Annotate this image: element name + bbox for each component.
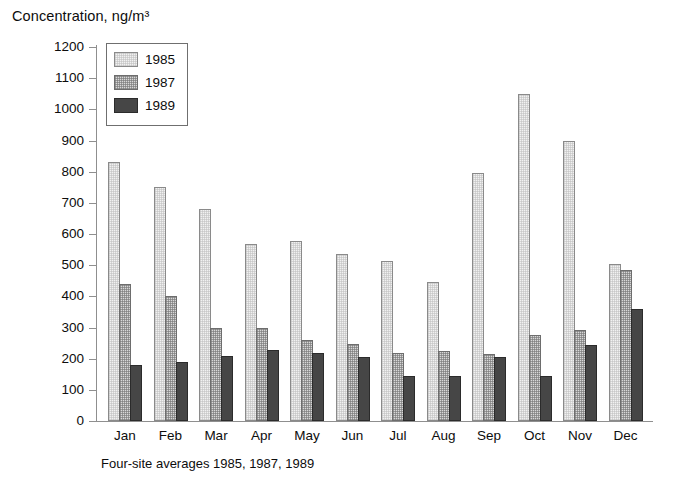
chart-legend: 198519871989 bbox=[106, 43, 188, 126]
y-axis-tick-label-text: 1200 bbox=[40, 40, 84, 54]
y-axis-tick-label: 400 bbox=[34, 289, 84, 303]
y-axis-tick bbox=[89, 203, 97, 204]
y-axis-tick-label-text: 900 bbox=[40, 134, 84, 148]
bar-group bbox=[609, 47, 645, 421]
y-axis-tick-label: 0 bbox=[34, 414, 84, 428]
y-axis-tick bbox=[89, 390, 97, 391]
bar-group bbox=[290, 47, 326, 421]
y-axis-tick bbox=[89, 328, 97, 329]
y-axis-tick-label: 300 bbox=[34, 321, 84, 335]
y-axis-tick bbox=[89, 421, 97, 422]
x-axis-tick-label: Dec bbox=[596, 428, 656, 443]
y-axis-tick bbox=[89, 265, 97, 266]
bar bbox=[176, 362, 188, 421]
y-axis-tick-label: 600 bbox=[34, 227, 84, 241]
legend-item: 1989 bbox=[114, 97, 184, 114]
y-axis-tick-label-text: 300 bbox=[40, 321, 84, 335]
y-axis-tick-label: 200 bbox=[34, 352, 84, 366]
legend-swatch bbox=[114, 98, 138, 113]
y-axis-tick-label: 1100 bbox=[34, 71, 84, 85]
y-axis-tick bbox=[89, 234, 97, 235]
legend-item-label: 1985 bbox=[145, 51, 175, 68]
y-axis-tick-label: 700 bbox=[34, 196, 84, 210]
y-axis-tick-label: 900 bbox=[34, 134, 84, 148]
bar-group bbox=[245, 47, 281, 421]
y-axis-tick-label: 1200 bbox=[34, 40, 84, 54]
y-axis-title: Concentration, ng/m³ bbox=[12, 8, 149, 24]
y-axis-tick-label-text: 0 bbox=[40, 414, 84, 428]
y-axis-tick bbox=[89, 359, 97, 360]
bar-group bbox=[427, 47, 463, 421]
y-axis-tick-label-text: 700 bbox=[40, 196, 84, 210]
y-axis-tick bbox=[89, 78, 97, 79]
legend-item-label: 1989 bbox=[145, 97, 175, 114]
bar-group bbox=[199, 47, 235, 421]
y-axis-tick bbox=[89, 172, 97, 173]
bar bbox=[312, 353, 324, 421]
bar bbox=[631, 309, 643, 421]
y-axis-tick bbox=[89, 47, 97, 48]
y-axis-tick bbox=[89, 296, 97, 297]
bar-group bbox=[381, 47, 417, 421]
bar bbox=[449, 376, 461, 421]
bar-group bbox=[563, 47, 599, 421]
bar bbox=[585, 345, 597, 421]
y-axis-tick-label-text: 1000 bbox=[40, 102, 84, 116]
y-axis-tick-label: 800 bbox=[34, 165, 84, 179]
bar bbox=[403, 376, 415, 421]
y-axis-tick-label-text: 400 bbox=[40, 289, 84, 303]
y-axis-tick-label: 500 bbox=[34, 258, 84, 272]
legend-item: 1985 bbox=[114, 51, 184, 68]
y-axis-tick-label-text: 1100 bbox=[40, 71, 84, 85]
bar-group bbox=[336, 47, 372, 421]
y-axis-tick-label: 100 bbox=[34, 383, 84, 397]
y-axis-tick-label-text: 100 bbox=[40, 383, 84, 397]
bar bbox=[358, 357, 370, 422]
chart-figure: Concentration, ng/m³ 1200110010009008007… bbox=[0, 0, 673, 482]
legend-swatch bbox=[114, 52, 138, 67]
bar bbox=[267, 350, 279, 421]
bar-group bbox=[518, 47, 554, 421]
x-axis-line bbox=[96, 421, 653, 422]
y-axis-tick bbox=[89, 109, 97, 110]
legend-swatch bbox=[114, 75, 138, 90]
y-axis-tick-label-text: 800 bbox=[40, 165, 84, 179]
y-axis-tick-label-text: 500 bbox=[40, 258, 84, 272]
bar bbox=[221, 356, 233, 421]
y-axis-tick-label-text: 200 bbox=[40, 352, 84, 366]
bar-group bbox=[472, 47, 508, 421]
chart-caption: Four-site averages 1985, 1987, 1989 bbox=[101, 456, 314, 471]
y-axis-tick-label: 1000 bbox=[34, 102, 84, 116]
bar bbox=[130, 365, 142, 421]
bar bbox=[540, 376, 552, 421]
y-axis-tick-label-text: 600 bbox=[40, 227, 84, 241]
y-axis-tick bbox=[89, 141, 97, 142]
legend-item: 1987 bbox=[114, 74, 184, 91]
legend-item-label: 1987 bbox=[145, 74, 175, 91]
bar bbox=[494, 357, 506, 421]
